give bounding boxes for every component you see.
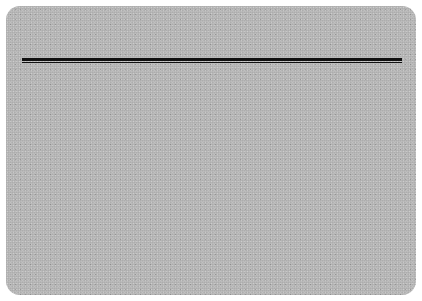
- x-axis-top: [177, 81, 400, 101]
- chart-card: [6, 6, 416, 295]
- title-rule-thick: [22, 58, 402, 61]
- x-axis-bottom: [177, 252, 400, 260]
- title-rule-thin: [22, 62, 402, 63]
